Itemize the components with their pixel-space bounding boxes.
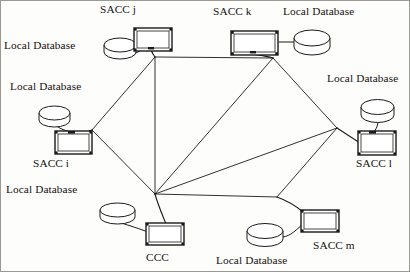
computer-sacc-m — [301, 210, 339, 232]
node-stub-links — [83, 47, 360, 224]
database-ccc — [100, 203, 135, 224]
stub-sacc-m — [277, 197, 303, 212]
db-wire-sacc-m — [283, 224, 303, 237]
label-sacc-m: SACC m — [313, 240, 355, 252]
computer-sacc-k — [231, 31, 278, 55]
database-sacc-l — [361, 100, 394, 123]
link-sacc-j-to-sacc-k — [155, 57, 273, 58]
label-ccc: CCC — [146, 252, 169, 264]
label-sacc-l: SACC l — [356, 158, 392, 170]
label-database-sacc-i: Local Database — [10, 81, 81, 93]
link-sacc-l-to-sacc-m — [277, 128, 337, 197]
label-sacc-k: SACC k — [213, 6, 252, 18]
computer-sacc-l — [358, 131, 396, 155]
label-database-ccc: Local Database — [6, 184, 77, 196]
label-database-sacc-l: Local Database — [327, 73, 398, 85]
link-sacc-i-to-ccc — [92, 130, 155, 194]
database-sacc-j — [104, 38, 136, 59]
computer-sacc-i — [55, 131, 92, 154]
link-sacc-j-to-sacc-i — [92, 57, 155, 130]
link-ccc-to-sacc-m — [155, 194, 277, 197]
label-sacc-j: SACC j — [100, 4, 136, 16]
link-sacc-l-to-ccc — [155, 128, 337, 194]
link-sacc-k-to-sacc-l — [273, 58, 337, 128]
stub-ccc — [155, 194, 166, 224]
label-database-sacc-k: Local Database — [283, 6, 354, 18]
database-sacc-m — [247, 224, 283, 247]
network-diagram: SACC j SACC k Local Database Local Datab… — [0, 0, 410, 272]
computer-sacc-j — [134, 28, 172, 51]
stub-sacc-l — [337, 128, 360, 143]
database-sacc-k — [294, 30, 330, 55]
link-sacc-k-to-ccc — [155, 58, 273, 194]
label-sacc-i: SACC i — [33, 158, 69, 170]
label-database-sacc-j: Local Database — [4, 40, 75, 52]
computer-ccc — [146, 223, 184, 245]
label-database-sacc-m: Local Database — [216, 255, 287, 267]
database-sacc-i — [39, 106, 70, 127]
network-links — [92, 57, 337, 197]
